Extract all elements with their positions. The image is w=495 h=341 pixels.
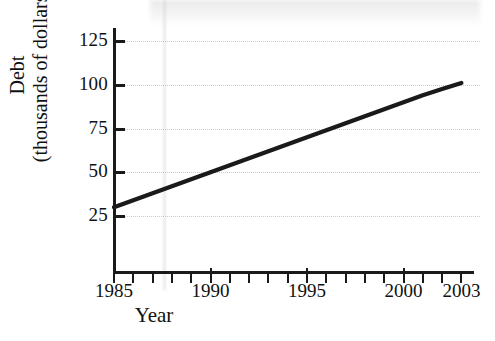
gridline — [116, 129, 480, 130]
gridline — [116, 85, 480, 86]
scan-artifact-streak — [163, 0, 166, 290]
gridline — [116, 216, 480, 217]
x-tick-label: 1985 — [89, 280, 139, 302]
y-axis-title: Debt (thousands of dollars) — [6, 0, 52, 190]
y-tick-label: 125 — [66, 30, 108, 49]
x-tick-minor — [267, 274, 269, 283]
x-axis-title-text: Year — [135, 303, 174, 327]
debt-line-series — [114, 83, 461, 207]
scan-artifact-top — [150, 0, 480, 26]
gridline — [116, 172, 480, 173]
y-tick — [116, 40, 125, 43]
gridline — [116, 41, 480, 42]
y-tick-label: 25 — [66, 205, 108, 224]
y-tick — [116, 128, 125, 131]
y-axis-title-line2: (thousands of dollars) — [29, 0, 52, 190]
x-tick-label: 2000 — [379, 280, 429, 302]
y-axis-line — [113, 28, 116, 274]
y-tick-label: 100 — [66, 74, 108, 93]
y-tick — [116, 84, 125, 87]
x-tick-minor — [248, 274, 250, 283]
x-tick-minor — [364, 274, 366, 283]
x-axis-title: Year — [0, 303, 495, 327]
y-tick-label: 75 — [66, 118, 108, 137]
y-tick-label: 50 — [66, 161, 108, 180]
x-tick-minor — [171, 274, 173, 283]
x-tick-minor — [345, 274, 347, 283]
chart-figure: 255075100125 19851990199520002003 Year D… — [0, 0, 495, 341]
x-tick-label: 1995 — [282, 280, 332, 302]
x-axis-line — [113, 271, 474, 274]
y-tick — [116, 171, 125, 174]
y-axis-title-line1: Debt — [6, 0, 29, 190]
x-tick-label: 2003 — [436, 280, 486, 302]
y-tick — [116, 215, 125, 218]
x-tick-label: 1990 — [186, 280, 236, 302]
x-tick-minor — [152, 274, 154, 283]
